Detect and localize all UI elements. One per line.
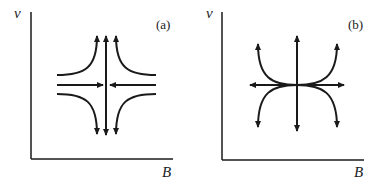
phase-diagrams — [0, 0, 383, 188]
panel-a-x-axis-label: B — [162, 164, 171, 181]
panel-b-label: (b) — [348, 17, 363, 33]
panel-b-y-axis-label: v — [206, 5, 213, 22]
panel-a-label: (a) — [156, 17, 170, 33]
panel-b-x-axis-label: B — [354, 164, 363, 181]
panel-b-node-flow — [250, 36, 344, 131]
panel-a-saddle-flow — [57, 36, 156, 135]
panel-a-y-axis-label: v — [14, 5, 21, 22]
